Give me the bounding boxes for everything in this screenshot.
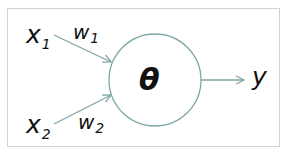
weight-var: w	[78, 110, 94, 134]
theta-label: θ	[139, 62, 160, 97]
weight-var: w	[73, 20, 89, 44]
weight-w1-label: w1	[73, 22, 98, 42]
input-var: x	[26, 110, 41, 139]
weight-sub: 1	[90, 30, 99, 46]
input-x2-label: x2	[26, 112, 50, 137]
input-x1-label: x1	[26, 22, 50, 47]
input-sub: 2	[42, 126, 51, 142]
output-y-label: y	[252, 64, 267, 89]
input-var: x	[26, 20, 41, 49]
input-sub: 1	[42, 36, 51, 52]
weight-sub: 2	[95, 120, 104, 136]
weight-w2-label: w2	[78, 112, 103, 132]
